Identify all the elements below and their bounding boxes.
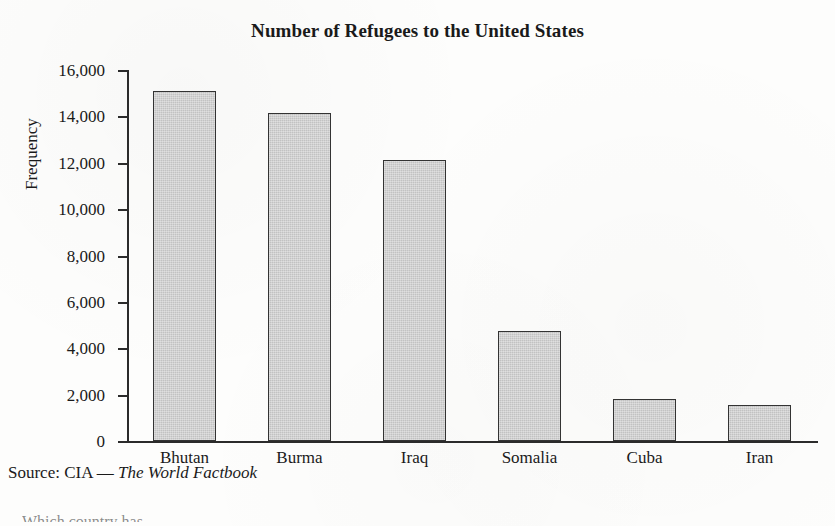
y-axis-tick-label: 16,000	[58, 61, 105, 81]
y-axis-tick-label: 2,000	[67, 386, 105, 406]
bar-iraq	[383, 160, 446, 441]
x-axis-label-iraq: Iraq	[357, 448, 472, 468]
bar-somalia	[498, 331, 561, 441]
chart-title: Number of Refugees to the United States	[0, 20, 835, 42]
figure-page: Number of Refugees to the United States …	[0, 0, 835, 526]
x-axis-line	[126, 441, 818, 443]
source-note: Source: CIA — The World Factbook	[8, 463, 257, 483]
x-axis-label-burma: Burma	[242, 448, 357, 468]
y-axis-tick: 6,000	[118, 302, 127, 304]
y-axis-title: Frequency	[22, 118, 42, 190]
plot-area: 02,0004,0006,0008,00010,00012,00014,0001…	[127, 70, 817, 441]
y-axis-tick: 12,000	[118, 163, 127, 165]
clipped-question-text: Which country has...	[22, 513, 155, 522]
y-axis-tick-label: 14,000	[58, 107, 105, 127]
bar-bhutan	[153, 91, 216, 441]
bar-iran	[728, 405, 791, 441]
y-axis-tick: 16,000	[118, 70, 127, 72]
x-axis-label-somalia: Somalia	[472, 448, 587, 468]
y-axis-tick-label: 8,000	[67, 247, 105, 267]
x-axis-label-cuba: Cuba	[587, 448, 702, 468]
source-prefix: Source: CIA —	[8, 463, 118, 482]
y-axis-tick: 4,000	[118, 348, 127, 350]
y-axis-tick: 10,000	[118, 209, 127, 211]
y-axis-tick: 0	[118, 441, 127, 443]
y-axis-tick-label: 10,000	[58, 200, 105, 220]
y-axis-tick-label: 6,000	[67, 293, 105, 313]
source-publication-title: The World Factbook	[118, 463, 257, 482]
bar-burma	[268, 113, 331, 441]
y-axis-tick-label: 0	[97, 432, 106, 452]
y-axis-tick: 2,000	[118, 395, 127, 397]
bar-cuba	[613, 399, 676, 441]
y-axis-tick: 8,000	[118, 256, 127, 258]
y-axis-tick: 14,000	[118, 116, 127, 118]
y-axis-tick-label: 4,000	[67, 339, 105, 359]
y-axis-tick-label: 12,000	[58, 154, 105, 174]
x-axis-label-iran: Iran	[702, 448, 817, 468]
y-axis-line	[127, 70, 129, 442]
